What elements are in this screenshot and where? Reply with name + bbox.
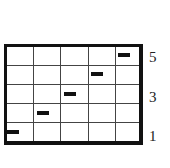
mark-row2-col2 [37,111,49,115]
row-label-5: 5 [149,50,157,65]
row-label-3: 3 [149,90,157,105]
grid-column-line [88,47,89,141]
staircase-grid [4,44,143,145]
mark-row4-col4 [91,72,103,76]
grid-row-line [7,122,139,123]
row-label-1: 1 [149,129,157,144]
grid-row-line [7,84,139,85]
grid-column-line [33,47,34,141]
grid-row-line [7,65,139,66]
grid-row-line [7,103,139,104]
grid-column-line [115,47,116,141]
mark-row3-col3 [64,92,76,96]
mark-row1-col1 [7,130,19,134]
mark-row5-col5 [118,53,130,57]
grid-column-line [60,47,61,141]
